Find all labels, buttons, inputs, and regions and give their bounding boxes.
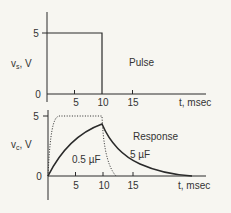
- label-0.5uF: 0.5 µF: [72, 154, 101, 165]
- pulse-line: [47, 33, 102, 94]
- response-ytick-label-0: 0: [36, 171, 42, 182]
- response-xtick-label-15: 15: [127, 180, 139, 191]
- figure: 5 0 5 10 15 t, msec vs, V Pulse 5 0 5 10…: [0, 0, 231, 213]
- response-xtick-label-10: 10: [98, 180, 110, 191]
- response-xtick-label-5: 5: [73, 180, 79, 191]
- pulse-ytick-label-0: 0: [35, 89, 41, 100]
- pulse-xtick-label-10: 10: [97, 97, 109, 108]
- pulse-xtick-label-15: 15: [127, 97, 139, 108]
- response-curve-0.5uF: [48, 116, 116, 176]
- response-title: Response: [133, 131, 178, 142]
- label-5uF: 5 µF: [130, 149, 150, 160]
- pulse-title: Pulse: [129, 57, 154, 68]
- pulse-y-axis-label: vs, V: [11, 58, 32, 70]
- response-ytick-label-5: 5: [33, 111, 39, 122]
- pulse-chart: 5 0 5 10 15 t, msec vs, V Pulse: [11, 12, 211, 108]
- pulse-xtick-label-5: 5: [73, 97, 79, 108]
- response-y-axis-label: vc, V: [11, 139, 32, 151]
- pulse-ytick-label-5: 5: [33, 28, 39, 39]
- response-x-axis-label: t, msec: [178, 180, 210, 191]
- response-chart: 5 0 5 10 15 t, msec vc, V Response 5 µF …: [11, 110, 210, 200]
- pulse-x-axis-label: t, msec: [179, 97, 211, 108]
